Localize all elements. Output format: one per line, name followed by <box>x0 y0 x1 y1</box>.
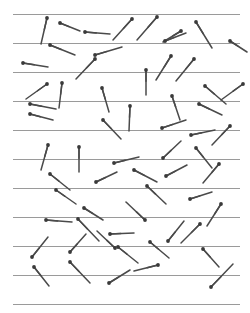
needle-head-7 <box>48 43 52 47</box>
needle-head-52 <box>68 250 72 254</box>
needle-head-18 <box>28 102 32 106</box>
needle-head-48 <box>108 232 112 236</box>
needle-head-13 <box>169 54 173 58</box>
needle-head-61 <box>209 285 213 289</box>
needle-head-4 <box>155 15 159 19</box>
needle-head-35 <box>48 172 52 176</box>
needle-head-11 <box>21 61 25 65</box>
needle-head-5 <box>194 20 198 24</box>
needle-head-23 <box>197 102 201 106</box>
needle-head-38 <box>164 174 168 178</box>
needle-head-24 <box>28 112 32 116</box>
needle-head-9 <box>163 39 167 43</box>
needle-head-16 <box>45 82 49 86</box>
needle-head-28 <box>189 133 193 137</box>
needle-head-55 <box>148 240 152 244</box>
needle-head-1 <box>58 21 62 25</box>
needle-head-46 <box>44 218 48 222</box>
needle-head-47 <box>76 217 80 221</box>
needle-head-40 <box>54 188 58 192</box>
needle-head-50 <box>198 222 202 226</box>
needle-head-30 <box>46 143 50 147</box>
needle-head-14 <box>192 57 196 61</box>
needle-head-43 <box>82 206 86 210</box>
needle-head-27 <box>160 126 164 130</box>
needle-head-45 <box>219 202 223 206</box>
needle-head-56 <box>201 247 205 251</box>
needle-head-59 <box>107 281 111 285</box>
needle-head-25 <box>128 104 132 108</box>
needle-head-15 <box>144 68 148 72</box>
needle-head-60 <box>156 263 160 267</box>
needle-head-8 <box>93 53 97 57</box>
needle-head-22 <box>170 94 174 98</box>
needle-head-20 <box>203 84 207 88</box>
needle-head-36 <box>94 180 98 184</box>
needle-head-32 <box>112 161 116 165</box>
needle-head-42 <box>188 197 192 201</box>
needle-head-41 <box>145 184 149 188</box>
needle-head-54 <box>116 245 120 249</box>
needle-head-34 <box>194 146 198 150</box>
needle-head-29 <box>228 124 232 128</box>
needle-head-51 <box>30 255 34 259</box>
needle-head-37 <box>132 168 136 172</box>
buffon-needle-figure <box>0 0 250 313</box>
needle-head-31 <box>77 145 81 149</box>
needle-head-33 <box>161 156 165 160</box>
needle-head-2 <box>83 30 87 34</box>
needle-head-19 <box>100 86 104 90</box>
needle-head-57 <box>32 265 36 269</box>
needle-head-49 <box>166 239 170 243</box>
scatter-canvas <box>0 0 250 313</box>
needle-head-12 <box>93 57 97 61</box>
needle-head-26 <box>101 118 105 122</box>
needle-head-39 <box>217 162 221 166</box>
needle-head-10 <box>228 39 232 43</box>
needle-head-44 <box>143 218 147 222</box>
needle-head-21 <box>241 82 245 86</box>
needle-head-3 <box>130 17 134 21</box>
needle-head-0 <box>45 16 49 20</box>
needle-head-6 <box>179 29 183 33</box>
needle-head-58 <box>68 260 72 264</box>
needle-head-17 <box>60 81 64 85</box>
canvas-background <box>0 0 250 313</box>
